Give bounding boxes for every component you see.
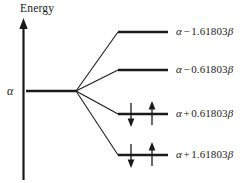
- level-2-alpha-symbol: α: [176, 63, 182, 75]
- alpha-reference-label: α: [7, 84, 13, 99]
- level-2-beta-symbol: β: [228, 63, 234, 75]
- level-3-coefficient: 0.61803: [191, 107, 227, 119]
- level-1-operator: −: [182, 25, 191, 37]
- level-1-coefficient: 1.61803: [191, 25, 227, 37]
- energy-level-lines: [118, 32, 168, 155]
- axis-title-energy: Energy: [20, 2, 54, 14]
- energy-axis: [19, 18, 27, 180]
- level-1-alpha-symbol: α: [176, 25, 182, 37]
- correlation-line-level-2: [76, 70, 118, 91]
- energy-level-label-3: α+0.61803β: [176, 107, 233, 119]
- correlation-line-level-4: [76, 91, 118, 155]
- level-4-operator: +: [182, 148, 191, 160]
- level-2-coefficient: 0.61803: [191, 63, 227, 75]
- energy-level-label-1: α−1.61803β: [176, 25, 233, 37]
- level-4-coefficient: 1.61803: [191, 148, 227, 160]
- correlation-line-level-3: [76, 91, 118, 114]
- level-2-operator: −: [182, 63, 191, 75]
- energy-axis-arrowhead-icon: [19, 18, 27, 29]
- level-4-beta-symbol: β: [228, 148, 234, 160]
- energy-level-label-2: α−0.61803β: [176, 63, 233, 75]
- correlation-lines: [76, 32, 118, 155]
- level-3-beta-symbol: β: [228, 107, 234, 119]
- level-3-alpha-symbol: α: [176, 107, 182, 119]
- level-1-beta-symbol: β: [228, 25, 234, 37]
- level-3-operator: +: [182, 107, 191, 119]
- mo-energy-diagram: Energy α α−1.61803β α−0.61803β α+0.61803…: [0, 0, 243, 183]
- level-4-alpha-symbol: α: [176, 148, 182, 160]
- correlation-line-level-1: [76, 32, 118, 91]
- energy-level-label-4: α+1.61803β: [176, 148, 233, 160]
